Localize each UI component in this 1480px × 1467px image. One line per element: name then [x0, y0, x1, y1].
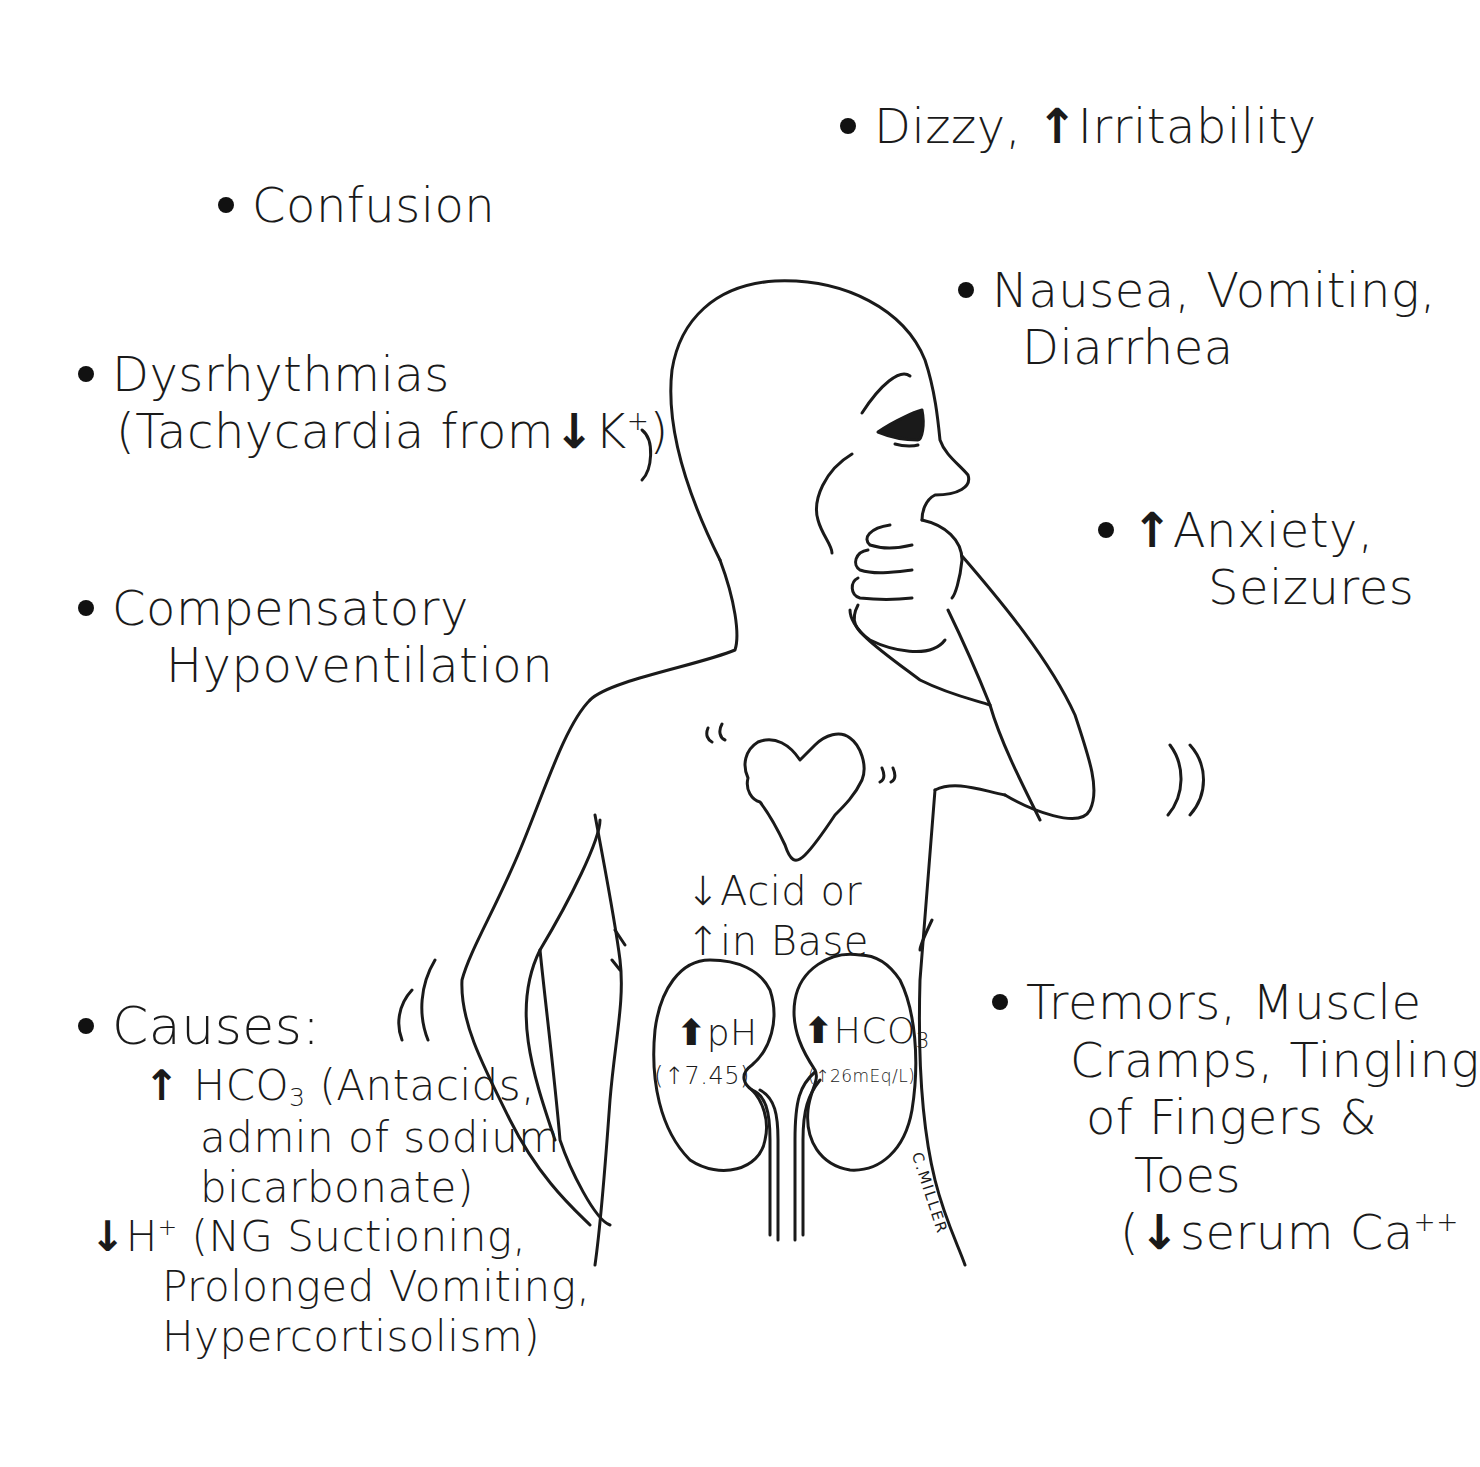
right-kidney-label: ⬆HCO3	[803, 1010, 930, 1054]
left-kidney-value: (↑7.45)	[654, 1062, 750, 1090]
bullet-icon	[78, 600, 94, 616]
heart-beat-marks	[707, 724, 895, 782]
symptom-nausea: Nausea, Vomiting, Diarrhea	[958, 262, 1436, 375]
bullet-icon	[840, 118, 856, 134]
arm-to-torso	[935, 786, 1005, 795]
right-kidney-value: (↑26mEq/L)	[808, 1066, 915, 1086]
causes-title: Causes:	[112, 996, 320, 1056]
neck-back	[590, 560, 737, 700]
bullet-icon	[78, 1018, 94, 1034]
hand	[852, 520, 962, 652]
symptom-tremors: Tremors, Muscle Cramps, Tingling of Fing…	[992, 974, 1480, 1262]
up-arrow-icon: ↑	[144, 1061, 180, 1110]
down-arrow-icon: ↓	[554, 403, 595, 459]
bold-up-arrow-icon: ⬆	[803, 1010, 834, 1051]
eyebrow	[862, 374, 910, 413]
up-arrow-icon: ↑	[1132, 502, 1173, 558]
down-arrow-icon: ↓	[1139, 1204, 1180, 1260]
up-arrow-icon: ↑	[815, 1066, 830, 1086]
causes-section: Causes: ↑ HCO3 (Antacids, admin of sodiu…	[78, 996, 590, 1361]
symptom-confusion: Confusion	[218, 177, 495, 234]
bullet-icon	[1098, 522, 1114, 538]
down-arrow-icon: ↓	[90, 1212, 126, 1261]
right-kidney	[794, 954, 916, 1170]
ureters	[752, 1072, 820, 1240]
up-arrow-icon: ↑	[1037, 98, 1078, 154]
left-kidney-label: ⬆pH	[676, 1012, 758, 1054]
symptom-dysrhythmias: Dysrhythmias (Tachycardia from↓K+)	[78, 346, 669, 459]
symptom-compensatory: Compensatory Hypoventilation	[78, 580, 553, 693]
heart-icon	[745, 734, 864, 860]
bullet-icon	[78, 366, 94, 382]
left-torso	[595, 815, 621, 1265]
symptom-dizzy: Dizzy, ↑Irritability	[840, 98, 1317, 155]
eye-underline	[895, 444, 918, 446]
bullet-icon	[992, 994, 1008, 1010]
bullet-icon	[958, 282, 974, 298]
symptom-anxiety: ↑Anxiety, Seizures	[1098, 502, 1414, 615]
down-arrow-icon: ↓	[686, 868, 720, 914]
bullet-icon	[218, 197, 234, 213]
tremor-marks-right	[1168, 745, 1204, 815]
cheek	[817, 454, 852, 553]
acid-base-label: ↓Acid or ↑in Base	[686, 866, 869, 966]
bold-up-arrow-icon: ⬆	[676, 1012, 707, 1053]
forearm	[948, 610, 1040, 820]
eye	[878, 410, 923, 440]
up-arrow-icon: ↑	[686, 918, 720, 964]
up-arrow-icon: ↑	[664, 1062, 685, 1090]
